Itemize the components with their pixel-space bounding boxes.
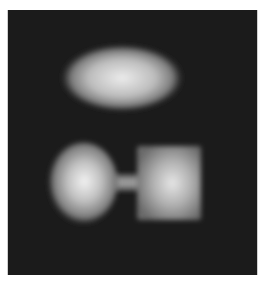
ellipse-shape bbox=[62, 45, 182, 111]
round-blob-shape bbox=[48, 142, 118, 224]
shapes-canvas bbox=[0, 0, 265, 284]
square-shape bbox=[137, 146, 201, 220]
